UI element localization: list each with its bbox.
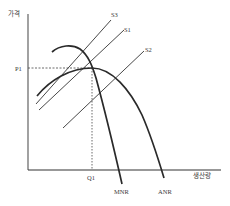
- y-axis-label: 가격: [8, 9, 20, 18]
- mnr-curve: [52, 46, 122, 184]
- anr-curve: [37, 68, 164, 178]
- s2-label: S2: [145, 46, 152, 53]
- anr-label: ANR: [158, 188, 172, 195]
- s2-curve: [63, 51, 144, 128]
- q1-label: Q1: [87, 174, 95, 181]
- p1-label: P1: [15, 65, 22, 72]
- supply-revenue-diagram: 가격 생산량 P1 Q1 S3 S1 S2 MNR ANR: [0, 0, 230, 206]
- mnr-label: MNR: [114, 188, 129, 195]
- s3-label: S3: [111, 11, 118, 18]
- s1-label: S1: [124, 26, 131, 33]
- x-axis-label: 생산량: [193, 171, 211, 180]
- s1-curve: [39, 30, 124, 110]
